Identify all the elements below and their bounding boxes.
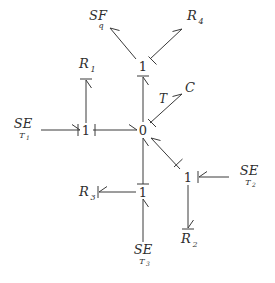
bond-1-junction-right-to-0-junction [151,138,183,169]
half-arrow-head [129,125,137,131]
bond-1-junction-to-r1 [80,79,92,123]
element-se-t2-subscript: T [245,178,251,187]
element-r1[interactable]: R 1 [78,56,95,74]
element-r2-label: R [180,231,191,246]
bond-1-junction-bottom-to-r3 [98,186,136,198]
element-c-label: C [185,80,195,95]
bond-line [150,29,182,59]
bond-1-junction-bottom-to-0-junction [137,138,149,184]
junction-1-bottom[interactable]: 1 [139,185,147,200]
element-se-t3-subscript: T [139,257,145,266]
element-se-t3[interactable]: SE T 3 [134,242,153,267]
causal-stroke [174,159,183,167]
junction-0-center[interactable]: 0 [139,123,147,138]
element-se-t2[interactable]: SE T 2 [240,163,259,188]
bond-1-junction-right-to-r2 [182,185,194,229]
bond-1-junction-top-to-r4 [149,29,183,65]
element-se-t1-subscript: T [19,131,25,140]
element-r1-label: R [78,56,89,71]
element-se-t1[interactable]: SE T 1 [14,116,33,141]
half-arrow-head [143,138,149,146]
bond-1-junction-to-0-junction [93,124,137,136]
element-r2-subscript: 2 [191,240,197,249]
element-r3-subscript: 3 [90,193,95,202]
causal-stroke [148,119,156,127]
bond-line [110,28,136,59]
element-se-t2-subscript-index: 2 [251,181,256,188]
half-arrow-head [143,77,149,85]
bond-se-t2-to-1-junction-right [198,171,229,183]
element-r4-subscript: 4 [197,17,203,26]
element-r4-label: R [186,8,197,23]
element-se-t3-subscript-index: 3 [146,260,150,267]
element-se-t1-subscript-index: 1 [26,134,30,141]
element-sf-q[interactable]: SF q [89,8,108,30]
half-arrow-head [72,125,80,131]
bond-se-t1-to-1-junction [41,124,80,136]
element-r2[interactable]: R 2 [180,231,197,249]
junction-1-top[interactable]: 1 [139,59,147,74]
element-se-t3-label: SE [134,242,153,257]
element-r1-subscript: 1 [90,65,95,74]
bond-se-t3-to-1-junction-bottom [143,199,149,242]
element-r4[interactable]: R 4 [186,8,203,26]
element-c[interactable]: C [185,80,195,95]
bond-0-junction-to-1-junction-top [137,76,149,122]
bond-label-t: T [159,92,168,106]
bond-graph-canvas: 1 1 0 1 1 SF q R 4 R 1 C SE T 1 SE T 2 R… [0,0,275,283]
half-arrow-head [86,80,92,88]
element-se-t1-label: SE [14,116,33,131]
junction-1-right[interactable]: 1 [184,170,192,185]
bond-line [151,138,180,169]
half-arrow-head [199,172,207,178]
element-sf-q-subscript: q [98,21,103,30]
causal-stroke [149,57,157,65]
element-r3[interactable]: R 3 [78,184,95,202]
half-arrow-head [143,199,149,207]
half-arrow-head [188,220,194,228]
half-arrow-head [99,187,107,193]
element-se-t2-label: SE [240,163,259,178]
bond-1-junction-top-to-sf [110,28,136,59]
element-r3-label: R [78,184,89,199]
junction-1-left[interactable]: 1 [82,123,90,138]
